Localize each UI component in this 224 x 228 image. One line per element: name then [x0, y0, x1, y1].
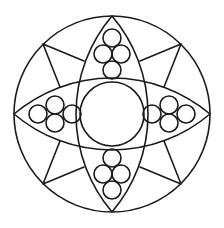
- cluster-bottom-circle-2: [94, 165, 112, 183]
- kite-bottom-right: [140, 141, 181, 184]
- cluster-top-circle-3: [112, 45, 130, 63]
- center-circle: [80, 82, 144, 146]
- kite-top-left: [43, 44, 84, 87]
- vertical-lens: [76, 16, 148, 212]
- cluster-right-circle-4: [143, 105, 161, 123]
- cluster-top-circle-2: [94, 45, 112, 63]
- cluster-top-circle-4: [103, 61, 121, 79]
- cluster-left-circle-3: [46, 114, 64, 132]
- cluster-bottom-circle-4: [103, 149, 121, 167]
- cluster-right-circle-2: [160, 96, 178, 114]
- cluster-left-circle-1: [29, 105, 47, 123]
- cluster-right-circle-3: [160, 114, 178, 132]
- cluster-left-circle-4: [63, 105, 81, 123]
- horizontal-lens: [14, 78, 210, 150]
- cluster-left-circle-2: [46, 96, 64, 114]
- center-ring: [80, 82, 144, 146]
- cluster-top-circle-1: [103, 29, 121, 47]
- cluster-right-circle-1: [177, 105, 195, 123]
- kite-top-right: [140, 44, 181, 87]
- cluster-bottom-circle-3: [112, 165, 130, 183]
- kite-bottom-left: [43, 141, 84, 184]
- cluster-bottom-circle-1: [103, 181, 121, 199]
- mandala-diagram: [0, 0, 224, 228]
- circle-clusters: [29, 29, 195, 199]
